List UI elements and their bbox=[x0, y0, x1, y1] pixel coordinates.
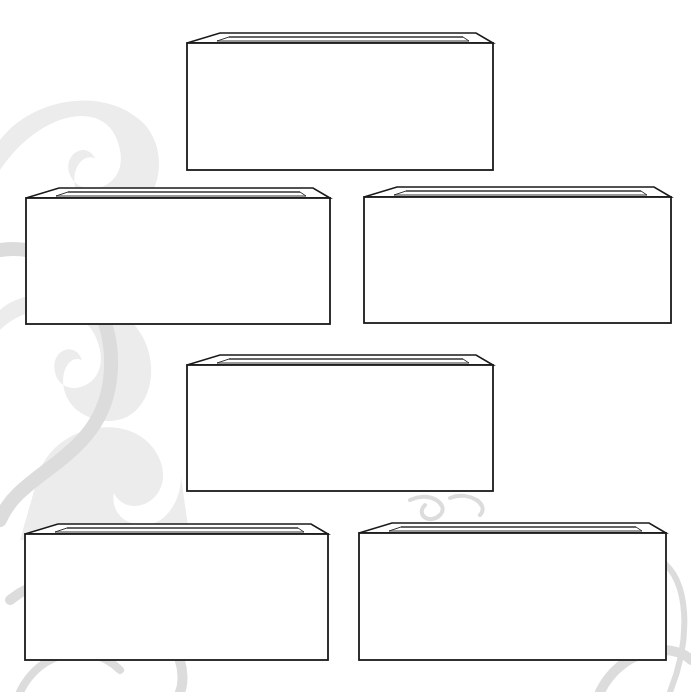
answer-box[interactable] bbox=[364, 187, 671, 323]
box-front-face[interactable] bbox=[364, 197, 671, 323]
box-opening bbox=[56, 192, 306, 196]
box-front-face[interactable] bbox=[187, 365, 493, 491]
box-front-face[interactable] bbox=[187, 43, 493, 170]
box-opening bbox=[217, 37, 469, 41]
box-front-face[interactable] bbox=[25, 534, 328, 660]
answer-box[interactable] bbox=[26, 188, 330, 324]
answer-box[interactable] bbox=[187, 355, 493, 491]
answer-box[interactable] bbox=[187, 33, 493, 170]
answer-box[interactable] bbox=[359, 523, 666, 660]
box-front-face[interactable] bbox=[26, 198, 330, 324]
box-opening bbox=[389, 527, 642, 531]
box-opening bbox=[217, 359, 469, 363]
box-opening bbox=[55, 528, 304, 532]
worksheet-canvas bbox=[0, 0, 691, 692]
answer-box[interactable] bbox=[25, 524, 328, 660]
box-front-face[interactable] bbox=[359, 533, 666, 660]
box-opening bbox=[394, 191, 647, 195]
